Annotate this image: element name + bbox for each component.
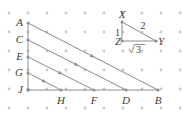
vertex-dot-B: [157, 89, 160, 92]
grid-dot: [160, 50, 163, 53]
point-label-G: G: [15, 66, 23, 78]
point-label-Y: Y: [158, 35, 166, 47]
grid-dot: [141, 69, 144, 72]
grid-dot: [179, 50, 182, 53]
xyz-vertex-dot-X: [121, 21, 124, 24]
point-label-D: D: [121, 94, 130, 106]
side-length-label-1: 1: [115, 27, 120, 38]
grid-dot: [65, 69, 68, 72]
grid-dot: [141, 50, 144, 53]
grid-dot: [160, 107, 163, 110]
grid-dot: [65, 50, 68, 53]
segment-CD-first-half: [28, 40, 77, 65]
vertex-dot-E: [27, 56, 30, 59]
side-length-label-sqrt3: 3: [129, 44, 145, 55]
grid-dot: [122, 50, 125, 53]
parallel-segments-layer: [28, 23, 158, 90]
point-label-C: C: [16, 33, 24, 45]
grid-dot: [141, 107, 144, 110]
vertex-dot-H: [60, 89, 63, 92]
point-label-J: J: [18, 83, 24, 95]
grid-dot: [65, 12, 68, 15]
grid-dot: [179, 107, 182, 110]
grid-dot: [103, 12, 106, 15]
side-length-label-2: 2: [141, 20, 146, 31]
point-label-F: F: [90, 94, 98, 106]
vertex-dot-C: [27, 39, 30, 42]
segment-AB-second-half: [93, 57, 158, 91]
point-label-X: X: [118, 8, 127, 20]
grid-dot: [65, 31, 68, 34]
grid-dot: [103, 107, 106, 110]
vertex-dot-A: [27, 22, 30, 25]
grid-dot: [27, 107, 30, 110]
grid-dot: [84, 12, 87, 15]
grid-dot: [160, 88, 163, 91]
point-label-B: B: [155, 94, 162, 106]
grid-dot: [8, 50, 11, 53]
grid-dot: [160, 31, 163, 34]
xyz-hypotenuse: [122, 22, 156, 41]
grid-dot: [103, 31, 106, 34]
grid-dot: [46, 12, 49, 15]
vertex-dot-G: [27, 72, 30, 75]
grid-dot: [46, 107, 49, 110]
grid-dot: [179, 88, 182, 91]
figure-svg: A C E G J H F D B X Z Y 1 2 3: [0, 0, 182, 114]
segment-EF-first-half: [28, 57, 61, 74]
grid-dot: [160, 69, 163, 72]
grid-dot: [8, 107, 11, 110]
point-label-H: H: [56, 94, 66, 106]
grid-dot: [122, 107, 125, 110]
grid-dot: [8, 88, 11, 91]
grid-dot: [103, 69, 106, 72]
segment-GH-first-half: [28, 73, 45, 82]
grid-dot: [84, 107, 87, 110]
grid-dot: [141, 12, 144, 15]
grid-dot: [8, 12, 11, 15]
segment-AB-first-half: [28, 23, 93, 57]
grid-dot: [160, 12, 163, 15]
vertex-dot-F: [93, 89, 96, 92]
grid-dot: [8, 31, 11, 34]
grid-dot: [103, 50, 106, 53]
grid-dot: [46, 69, 49, 72]
vertex-dot-D: [125, 89, 128, 92]
vertex-dot-J: [27, 89, 30, 92]
grid-dot: [8, 69, 11, 72]
grid-dot: [179, 31, 182, 34]
grid-dot: [179, 69, 182, 72]
point-label-A: A: [15, 16, 23, 28]
point-label-E: E: [15, 50, 23, 62]
grid-dot: [84, 31, 87, 34]
segment-EF-second-half: [61, 74, 94, 91]
grid-dot: [27, 12, 30, 15]
grid-dot: [65, 107, 68, 110]
grid-dot: [179, 12, 182, 15]
segment-CD-second-half: [77, 65, 126, 90]
sqrt3-radicand: 3: [136, 44, 141, 55]
geometry-figure-canvas: A C E G J H F D B X Z Y 1 2 3: [0, 0, 182, 114]
